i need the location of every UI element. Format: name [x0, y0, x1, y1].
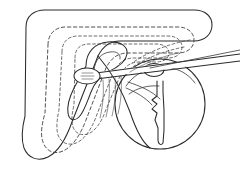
figure-root: Anatomical line drawing	[0, 0, 240, 181]
instrument-tip-loop	[74, 68, 100, 84]
figure-background	[0, 0, 240, 181]
anatomical-line-drawing	[0, 0, 240, 181]
